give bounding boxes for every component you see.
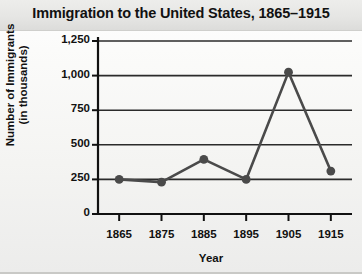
data-point [115, 175, 124, 184]
chart-figure: Immigration to the United States, 1865–1… [0, 0, 362, 274]
data-point [284, 68, 293, 77]
data-line [119, 72, 331, 182]
data-point [199, 155, 208, 164]
gridlines [98, 41, 352, 179]
plot-area [0, 0, 362, 274]
data-point [242, 175, 251, 184]
data-point [326, 167, 335, 176]
data-point [157, 178, 166, 187]
